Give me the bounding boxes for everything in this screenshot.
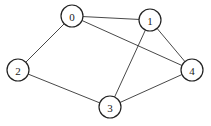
node-label: 2 bbox=[15, 65, 21, 77]
node-label: 4 bbox=[189, 65, 195, 77]
edge-0-4 bbox=[72, 16, 192, 70]
node-4: 4 bbox=[181, 59, 203, 81]
edge-2-3 bbox=[18, 70, 110, 107]
edge-0-1 bbox=[72, 16, 150, 20]
edges-group bbox=[18, 16, 192, 107]
node-0: 0 bbox=[61, 5, 83, 27]
edge-1-3 bbox=[110, 20, 150, 107]
edge-3-4 bbox=[110, 70, 192, 107]
node-1: 1 bbox=[139, 9, 161, 31]
node-label: 3 bbox=[107, 102, 113, 114]
graph-diagram: 01234 bbox=[0, 0, 211, 126]
node-3: 3 bbox=[99, 96, 121, 118]
node-label: 0 bbox=[69, 11, 75, 23]
node-label: 1 bbox=[147, 15, 153, 27]
node-2: 2 bbox=[7, 59, 29, 81]
